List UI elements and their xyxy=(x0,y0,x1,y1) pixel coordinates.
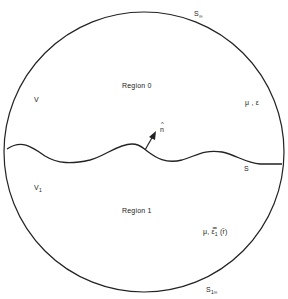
n-hat-base: n xyxy=(160,126,164,133)
outer-boundary-circle xyxy=(4,12,284,292)
label-s-infinity-sub: ∞ xyxy=(199,13,203,19)
label-volume-v: V xyxy=(34,96,39,103)
label-s1-infinity: S1∞ xyxy=(206,286,218,295)
label-s-infinity: S∞ xyxy=(194,10,203,19)
label-s1-infinity-sub: 1∞ xyxy=(211,289,218,295)
label-interface-s: S xyxy=(244,165,249,172)
label-region-0: Region 0 xyxy=(122,82,152,89)
label-region-1: Region 1 xyxy=(122,207,152,214)
interface-surface-s xyxy=(7,144,282,164)
label-volume-v1: V1 xyxy=(34,184,42,193)
mu-eps1-base: μ, ε̿ xyxy=(203,228,215,235)
label-mu-epsilon1-r: μ, ε̿1 (r̄) xyxy=(203,228,228,237)
mu-eps1-sub: 1 xyxy=(215,231,218,237)
normal-vector-arrowhead xyxy=(149,131,156,140)
label-v1-sub: 1 xyxy=(39,187,42,193)
label-normal-n-hat: ^ n xyxy=(160,126,164,133)
diagram-canvas xyxy=(0,0,288,299)
label-mu-epsilon: μ , ε xyxy=(245,99,259,106)
n-hat-accent: ^ xyxy=(161,121,164,127)
mu-eps1-arg: (r̄) xyxy=(220,228,228,235)
